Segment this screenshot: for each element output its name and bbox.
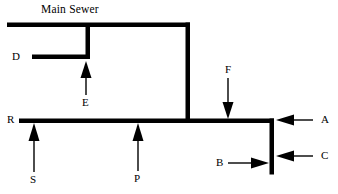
arrow-p (133, 123, 144, 171)
label-s: S (30, 173, 36, 185)
pipe-main-sewer-top (7, 23, 190, 28)
label-a: A (321, 113, 329, 125)
label-b: B (216, 156, 223, 168)
pipe-lower-main (19, 119, 274, 124)
pipe-e-junction-vertical (86, 25, 91, 59)
arrow-f (223, 78, 234, 119)
arrow-c (276, 151, 313, 162)
label-p: P (134, 172, 140, 184)
sewer-pipe-schematic (0, 0, 338, 194)
label-r: R (7, 113, 14, 125)
arrow-e (81, 61, 92, 95)
arrow-b (228, 158, 269, 169)
arrow-s (29, 123, 40, 172)
pipe-right-stack (270, 119, 275, 175)
sewer-diagram-canvas: Main Sewer D E F R S P A B C (0, 0, 338, 194)
label-d: D (12, 50, 20, 62)
pipe-main-riser-vertical (186, 23, 191, 124)
label-c: C (321, 149, 328, 161)
pipe-branch-d (32, 55, 90, 60)
diagram-title: Main Sewer (41, 3, 99, 15)
label-f: F (225, 63, 231, 75)
label-e: E (82, 96, 89, 108)
arrow-a (276, 115, 313, 126)
